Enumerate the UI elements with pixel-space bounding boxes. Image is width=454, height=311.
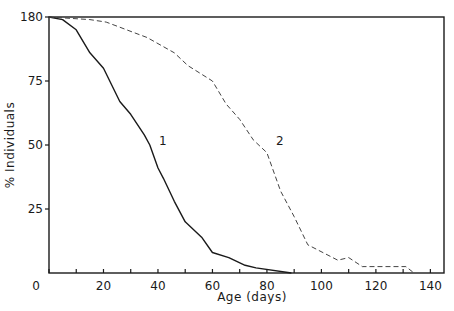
- x-tick-label: 20: [96, 279, 111, 293]
- plot-border: [49, 17, 444, 273]
- axis-ticks: 020406080100120140255075180: [20, 10, 442, 293]
- x-tick-label: 120: [364, 279, 387, 293]
- x-tick-label: 100: [310, 279, 333, 293]
- plot-frame: [49, 17, 444, 273]
- survival-chart: 020406080100120140255075180 12 Age (days…: [0, 0, 454, 311]
- x-tick-label: 140: [419, 279, 442, 293]
- y-tick-label: 180: [20, 10, 43, 24]
- series-labels: 12: [159, 134, 284, 148]
- y-tick-label: 50: [28, 138, 43, 152]
- series-label-1: 1: [159, 134, 167, 148]
- series-line-2: [49, 17, 414, 273]
- series-lines: [49, 17, 414, 273]
- y-tick-label: 75: [28, 74, 43, 88]
- y-tick-label: 25: [28, 202, 43, 216]
- series-line-1: [49, 17, 291, 273]
- series-label-2: 2: [276, 134, 284, 148]
- x-tick-label: 40: [150, 279, 165, 293]
- x-axis-title: Age (days): [217, 290, 287, 304]
- x-tick-label: 0: [32, 279, 40, 293]
- y-axis-title: % Individuals: [3, 102, 17, 188]
